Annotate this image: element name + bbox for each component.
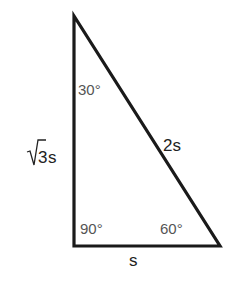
- right-triangle: [74, 16, 220, 246]
- angle-label-top: 30°: [78, 81, 101, 98]
- side-label-vertical-radicand: 3: [38, 148, 47, 167]
- angle-label-bottom-right: 60°: [160, 220, 183, 237]
- triangle-diagram: 30° 90° 60° 3 s 2s s: [0, 0, 231, 292]
- side-label-base: s: [129, 251, 138, 270]
- side-label-vertical-variable: s: [48, 148, 57, 167]
- side-label-hypotenuse: 2s: [163, 136, 181, 155]
- angle-label-right-angle: 90°: [80, 220, 103, 237]
- side-label-vertical-leg: 3 s: [27, 140, 57, 167]
